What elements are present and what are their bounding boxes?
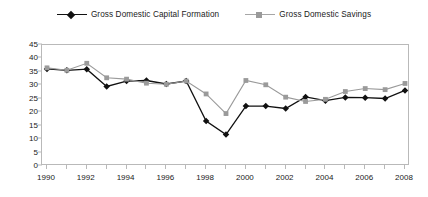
line-chart: Gross Domestic Capital Formation Gross D… xyxy=(0,0,428,197)
x-axis-tick xyxy=(165,165,166,169)
legend-label-savings: Gross Domestic Savings xyxy=(279,10,371,19)
y-axis-tick-label: 25 xyxy=(16,93,38,102)
y-axis-tick-label: 20 xyxy=(16,107,38,116)
x-axis-tick-label: 1996 xyxy=(156,173,174,182)
x-axis-tick-label: 1998 xyxy=(196,173,214,182)
x-axis-tick xyxy=(145,165,146,169)
series-lines xyxy=(42,45,410,166)
data-point-square xyxy=(64,68,69,73)
y-axis-tick xyxy=(38,97,42,98)
y-axis-tick xyxy=(38,70,42,71)
x-axis-tick xyxy=(344,165,345,169)
y-axis-tick-label: 5 xyxy=(16,147,38,156)
x-axis-tick xyxy=(106,165,107,169)
data-point-square xyxy=(403,81,408,86)
x-axis-tick-label: 2006 xyxy=(355,173,373,182)
data-point-square xyxy=(263,82,268,87)
y-axis-tick-label: 0 xyxy=(16,161,38,170)
x-axis-tick-label: 2002 xyxy=(276,173,294,182)
data-point-diamond xyxy=(362,94,369,101)
x-axis-tick xyxy=(66,165,67,169)
y-axis-tick xyxy=(38,44,42,45)
y-axis-tick-label: 35 xyxy=(16,66,38,75)
data-point-square xyxy=(323,97,328,102)
x-axis-tick-label: 1990 xyxy=(37,173,55,182)
x-axis: 1990199219941996199820002002200420062008 xyxy=(41,165,409,195)
data-point-diamond xyxy=(263,103,270,110)
x-axis-tick xyxy=(205,165,206,169)
data-point-square xyxy=(383,87,388,92)
x-axis-tick xyxy=(305,165,306,169)
y-axis-tick-label: 45 xyxy=(16,40,38,49)
data-point-square xyxy=(144,81,149,86)
y-axis-tick xyxy=(38,84,42,85)
plot-area xyxy=(41,44,409,165)
data-point-square xyxy=(243,78,248,83)
legend-entry-savings: Gross Domestic Savings xyxy=(245,10,371,19)
x-axis-tick xyxy=(126,165,127,169)
data-point-square xyxy=(124,77,129,82)
legend-marker-square-icon xyxy=(245,10,275,19)
x-axis-tick-label: 1994 xyxy=(117,173,135,182)
legend-entry-capital-formation: Gross Domestic Capital Formation xyxy=(57,10,219,19)
x-axis-tick-label: 2004 xyxy=(316,173,334,182)
x-axis-tick-label: 1992 xyxy=(77,173,95,182)
y-axis-tick xyxy=(38,111,42,112)
y-axis-tick xyxy=(38,138,42,139)
data-point-square xyxy=(164,82,169,87)
data-point-square xyxy=(224,111,229,116)
data-point-square xyxy=(104,75,109,80)
data-point-diamond xyxy=(342,94,349,101)
data-point-square xyxy=(303,99,308,104)
data-point-square xyxy=(184,79,189,84)
x-axis-tick xyxy=(364,165,365,169)
data-point-square xyxy=(283,95,288,100)
y-axis: 051015202530354045 xyxy=(14,44,38,165)
x-axis-tick xyxy=(384,165,385,169)
y-axis-tick xyxy=(38,165,42,166)
y-axis-tick xyxy=(38,57,42,58)
x-axis-tick xyxy=(245,165,246,169)
x-axis-tick-label: 2008 xyxy=(395,173,413,182)
data-point-diamond xyxy=(402,87,409,94)
data-point-square xyxy=(343,89,348,94)
y-axis-tick-label: 15 xyxy=(16,120,38,129)
legend-label-capital-formation: Gross Domestic Capital Formation xyxy=(91,10,219,19)
x-axis-tick xyxy=(185,165,186,169)
y-axis-tick-label: 10 xyxy=(16,134,38,143)
y-axis-tick-label: 30 xyxy=(16,80,38,89)
data-point-diamond xyxy=(382,95,389,102)
x-axis-tick xyxy=(285,165,286,169)
x-axis-tick xyxy=(265,165,266,169)
x-axis-tick-label: 2000 xyxy=(236,173,254,182)
y-axis-tick xyxy=(38,124,42,125)
data-point-square xyxy=(363,86,368,91)
y-axis-tick xyxy=(38,151,42,152)
x-axis-tick xyxy=(324,165,325,169)
data-point-square xyxy=(45,65,50,70)
x-axis-tick xyxy=(225,165,226,169)
series-line xyxy=(47,63,405,113)
x-axis-tick xyxy=(86,165,87,169)
legend-marker-diamond-icon xyxy=(57,10,87,19)
chart-legend: Gross Domestic Capital Formation Gross D… xyxy=(0,10,428,19)
y-axis-tick-label: 40 xyxy=(16,53,38,62)
x-axis-tick xyxy=(404,165,405,169)
data-point-square xyxy=(204,92,209,97)
data-point-square xyxy=(84,61,89,66)
x-axis-tick xyxy=(46,165,47,169)
data-point-diamond xyxy=(282,105,289,112)
series-line xyxy=(47,69,405,135)
